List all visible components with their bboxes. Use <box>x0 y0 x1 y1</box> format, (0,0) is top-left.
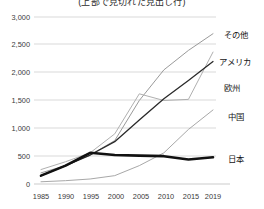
series-label-oshu: 欧州 <box>224 83 240 93</box>
x-axis-tick-labels: 1985 1990 1995 2000 2005 2010 2015 2019 <box>33 192 221 201</box>
x-tick-label: 2005 <box>133 192 149 201</box>
y-tick-label: 1,000 <box>12 124 31 133</box>
x-tick-label: 2015 <box>183 192 199 201</box>
y-tick-label: 0 <box>26 180 30 189</box>
y-tick-label: 500 <box>18 152 30 161</box>
series-line <box>41 34 213 173</box>
chart-container: (上部で見切れた見出し行) 3,000 2,500 2,000 1,500 1,… <box>0 0 264 209</box>
series-label-chugoku: 中国 <box>228 112 244 122</box>
series-line <box>41 52 213 169</box>
x-tick-label: 2010 <box>158 192 174 201</box>
y-tick-label: 2,000 <box>12 68 31 77</box>
x-tick-label: 1995 <box>83 192 99 201</box>
series-label-amerika: アメリカ <box>219 57 251 67</box>
y-tick-label: 1,500 <box>12 96 31 105</box>
series-label-sonota: その他 <box>224 30 249 40</box>
y-tick-label: 2,500 <box>12 40 31 49</box>
y-axis-tick-labels: 3,000 2,500 2,000 1,500 1,000 500 0 <box>12 13 31 189</box>
y-tick-label: 3,000 <box>12 13 31 22</box>
x-tick-label: 1990 <box>58 192 74 201</box>
series-lines <box>41 34 213 182</box>
x-tick-label: 2000 <box>108 192 124 201</box>
series-label-nihon: 日本 <box>228 154 245 164</box>
x-tick-label: 2019 <box>205 192 221 201</box>
line-chart-svg: 3,000 2,500 2,000 1,500 1,000 500 0 1985… <box>0 0 264 209</box>
x-tick-label: 1985 <box>33 192 49 201</box>
series-inline-labels: その他 アメリカ 欧州 中国 日本 <box>219 30 251 164</box>
